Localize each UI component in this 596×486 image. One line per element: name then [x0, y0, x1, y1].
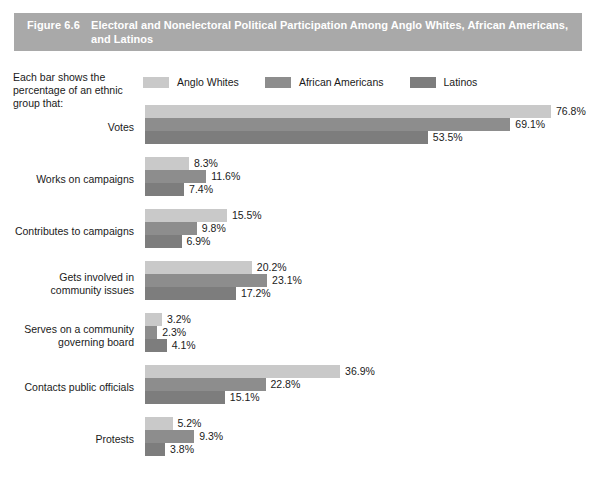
bar-stack: 3.2%2.3%4.1%	[145, 313, 596, 352]
bar-row: 76.8%	[145, 105, 596, 118]
bar-stack: 20.2%23.1%17.2%	[145, 261, 596, 300]
chart-group: Votes76.8%69.1%53.5%	[0, 103, 596, 155]
category-label: Gets involved incommunity issues	[0, 271, 134, 296]
bar-value-label: 17.2%	[241, 287, 271, 300]
bar-row: 53.5%	[145, 131, 596, 144]
bar-row: 5.2%	[145, 417, 596, 430]
legend-swatch-icon	[265, 77, 291, 88]
bar-value-label: 20.2%	[257, 261, 287, 274]
bar	[145, 287, 236, 300]
bar	[145, 274, 267, 287]
category-label-line: Votes	[0, 121, 134, 134]
category-label: Serves on a communitygoverning board	[0, 323, 134, 348]
legend-swatch-icon	[410, 77, 436, 88]
bar	[145, 235, 182, 248]
chart-group: Works on campaigns8.3%11.6%7.4%	[0, 155, 596, 207]
bar	[145, 417, 173, 430]
category-label-line: Gets involved in	[0, 271, 134, 284]
category-label: Contributes to campaigns	[0, 225, 134, 238]
bar	[145, 313, 162, 326]
bar-value-label: 15.1%	[230, 391, 260, 404]
bar-row: 6.9%	[145, 235, 596, 248]
bar-value-label: 5.2%	[178, 417, 202, 430]
bar-stack: 15.5%9.8%6.9%	[145, 209, 596, 248]
bar	[145, 131, 428, 144]
bar-row: 23.1%	[145, 274, 596, 287]
bar	[145, 443, 165, 456]
bar	[145, 118, 510, 131]
chart-group: Protests5.2%9.3%3.8%	[0, 415, 596, 467]
category-label-line: Contributes to campaigns	[0, 225, 134, 238]
bar-stack: 5.2%9.3%3.8%	[145, 417, 596, 456]
bar-row: 17.2%	[145, 287, 596, 300]
category-label: Works on campaigns	[0, 173, 134, 186]
bar	[145, 209, 227, 222]
bar	[145, 222, 197, 235]
bar-row: 4.1%	[145, 339, 596, 352]
chart-group: Contributes to campaigns15.5%9.8%6.9%	[0, 207, 596, 259]
bar-value-label: 6.9%	[187, 235, 211, 248]
bar	[145, 365, 340, 378]
legend-label: African Americans	[299, 76, 384, 88]
chart-group: Gets involved incommunity issues20.2%23.…	[0, 259, 596, 311]
bar-value-label: 53.5%	[433, 131, 463, 144]
legend-item: Latinos	[410, 76, 478, 88]
chart-group: Contacts public officials36.9%22.8%15.1%	[0, 363, 596, 415]
bar	[145, 430, 194, 443]
bar-value-label: 69.1%	[515, 118, 545, 131]
bar-value-label: 22.8%	[271, 378, 301, 391]
figure-number: Figure 6.6	[14, 18, 91, 32]
figure-header-banner: Figure 6.6 Electoral and Nonelectoral Po…	[14, 13, 582, 51]
bar-value-label: 9.8%	[202, 222, 226, 235]
chart-plot-area: Votes76.8%69.1%53.5%Works on campaigns8.…	[0, 103, 596, 467]
bar-row: 15.5%	[145, 209, 596, 222]
bar-row: 9.8%	[145, 222, 596, 235]
bar-value-label: 11.6%	[211, 170, 240, 183]
bar-value-label: 36.9%	[345, 365, 375, 378]
bar-value-label: 76.8%	[556, 105, 586, 118]
category-label-line: community issues	[0, 284, 134, 297]
legend-swatch-icon	[143, 77, 169, 88]
category-label-line: Works on campaigns	[0, 173, 134, 186]
bar-row: 20.2%	[145, 261, 596, 274]
category-label-line: Protests	[0, 433, 134, 446]
category-label: Protests	[0, 433, 134, 446]
bar	[145, 170, 206, 183]
bar-value-label: 7.4%	[189, 183, 213, 196]
bar-row: 36.9%	[145, 365, 596, 378]
figure-title: Electoral and Nonelectoral Political Par…	[91, 18, 582, 46]
bar	[145, 339, 167, 352]
category-label-line: Serves on a community	[0, 323, 134, 336]
bar-row: 69.1%	[145, 118, 596, 131]
legend-label: Latinos	[444, 76, 478, 88]
bar	[145, 391, 225, 404]
bar-row: 22.8%	[145, 378, 596, 391]
bar-stack: 8.3%11.6%7.4%	[145, 157, 596, 196]
legend-label: Anglo Whites	[177, 76, 239, 88]
category-label: Contacts public officials	[0, 381, 134, 394]
bar-stack: 76.8%69.1%53.5%	[145, 105, 596, 144]
bar-row: 7.4%	[145, 183, 596, 196]
legend-item: African Americans	[265, 76, 384, 88]
bar	[145, 183, 184, 196]
bar-value-label: 8.3%	[194, 157, 218, 170]
category-label-line: governing board	[0, 336, 134, 349]
bar-row: 2.3%	[145, 326, 596, 339]
bar-stack: 36.9%22.8%15.1%	[145, 365, 596, 404]
bar-value-label: 2.3%	[162, 326, 186, 339]
bar	[145, 261, 252, 274]
bar	[145, 157, 189, 170]
bar	[145, 326, 157, 339]
bar-value-label: 15.5%	[232, 209, 262, 222]
bar-value-label: 3.2%	[167, 313, 191, 326]
bar-value-label: 9.3%	[199, 430, 223, 443]
chart-legend: Anglo WhitesAfrican AmericansLatinos	[143, 74, 503, 90]
bar-row: 9.3%	[145, 430, 596, 443]
bar-value-label: 3.8%	[170, 443, 194, 456]
bar-row: 3.8%	[145, 443, 596, 456]
bar-row: 15.1%	[145, 391, 596, 404]
bar-row: 3.2%	[145, 313, 596, 326]
bar-row: 11.6%	[145, 170, 596, 183]
bar-value-label: 23.1%	[272, 274, 302, 287]
chart-group: Serves on a communitygoverning board3.2%…	[0, 311, 596, 363]
